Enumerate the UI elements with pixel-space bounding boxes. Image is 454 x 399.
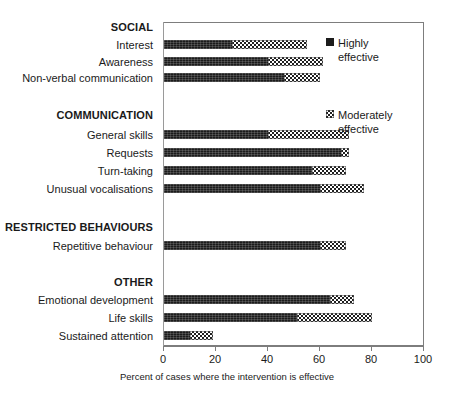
- x-axis-tick-label: 0: [160, 353, 166, 365]
- bar-segment-moderately-effective: [190, 331, 213, 340]
- category-label-emotional-development: Emotional development: [38, 295, 153, 306]
- bar-segment-moderately-effective: [341, 148, 349, 157]
- bar-segment-moderately-effective: [320, 184, 364, 193]
- bar-segment-highly-effective: [164, 57, 268, 66]
- category-label-awareness: Awareness: [99, 57, 153, 68]
- bar-segment-highly-effective: [164, 331, 190, 340]
- category-label-life-skills: Life skills: [108, 313, 153, 324]
- bar-non-verbal-communication[interactable]: [164, 73, 320, 82]
- x-axis-tick: [371, 346, 372, 351]
- bar-segment-highly-effective: [164, 295, 330, 304]
- bar-requests[interactable]: [164, 148, 349, 157]
- legend-swatch-checkered-icon: [326, 110, 334, 118]
- bar-segment-highly-effective: [164, 313, 297, 322]
- legend-label-line1: Highly: [338, 36, 379, 50]
- legend-label-line2: effective: [338, 50, 379, 64]
- bar-segment-moderately-effective: [232, 40, 307, 49]
- legend-label-line2: effective: [338, 122, 392, 136]
- category-label-requests: Requests: [107, 148, 153, 159]
- group-label-restricted-behaviours: RESTRICTED BEHAVIOURS: [5, 222, 153, 233]
- bar-life-skills[interactable]: [164, 313, 372, 322]
- bar-turn-taking[interactable]: [164, 166, 346, 175]
- bar-general-skills[interactable]: [164, 130, 349, 139]
- bar-interest[interactable]: [164, 40, 307, 49]
- bar-segment-moderately-effective: [297, 313, 372, 322]
- bar-sustained-attention[interactable]: [164, 331, 213, 340]
- bar-repetitive-behaviour[interactable]: [164, 241, 346, 250]
- bar-segment-highly-effective: [164, 40, 232, 49]
- category-label-interest: Interest: [116, 40, 153, 51]
- stacked-bar-chart: SOCIAL Interest Awareness Non-verbal com…: [0, 0, 454, 399]
- legend-label-line1: Moderately: [338, 108, 392, 122]
- x-axis-tick-label: 20: [209, 353, 221, 365]
- bar-segment-highly-effective: [164, 166, 312, 175]
- bar-segment-moderately-effective: [330, 295, 353, 304]
- x-axis-tick: [163, 346, 164, 351]
- bar-segment-moderately-effective: [284, 73, 320, 82]
- x-axis-tick: [215, 346, 216, 351]
- x-axis-tick: [267, 346, 268, 351]
- bar-awareness[interactable]: [164, 57, 323, 66]
- bar-segment-moderately-effective: [320, 241, 346, 250]
- category-label-repetitive-behaviour: Repetitive behaviour: [53, 241, 153, 252]
- x-axis-title: Percent of cases where the intervention …: [0, 371, 454, 382]
- group-label-social: SOCIAL: [111, 22, 153, 33]
- x-axis-line: [163, 346, 424, 347]
- legend-swatch-solid-icon: [326, 38, 334, 46]
- category-label-general-skills: General skills: [87, 130, 153, 141]
- bar-segment-highly-effective: [164, 148, 341, 157]
- bar-segment-highly-effective: [164, 241, 320, 250]
- category-label-sustained-attention: Sustained attention: [59, 331, 153, 342]
- bar-segment-highly-effective: [164, 130, 268, 139]
- group-label-communication: COMMUNICATION: [57, 110, 153, 121]
- x-axis-tick: [423, 346, 424, 351]
- x-axis-tick: [319, 346, 320, 351]
- bar-segment-moderately-effective: [312, 166, 346, 175]
- category-label-turn-taking: Turn-taking: [98, 166, 153, 177]
- category-label-non-verbal-communication: Non-verbal communication: [22, 73, 153, 84]
- x-axis-tick-label: 60: [313, 353, 325, 365]
- bar-emotional-development[interactable]: [164, 295, 354, 304]
- x-axis-tick-label: 40: [261, 353, 273, 365]
- legend-label-moderately-effective: Moderately effective: [338, 108, 392, 136]
- bar-segment-moderately-effective: [268, 57, 323, 66]
- legend-item-highly-effective[interactable]: Highly effective: [326, 36, 379, 64]
- x-axis-tick-label: 80: [365, 353, 377, 365]
- legend-label-highly-effective: Highly effective: [338, 36, 379, 64]
- bar-segment-highly-effective: [164, 73, 284, 82]
- bar-unusual-vocalisations[interactable]: [164, 184, 364, 193]
- category-label-unusual-vocalisations: Unusual vocalisations: [47, 184, 153, 195]
- category-label-column: SOCIAL Interest Awareness Non-verbal com…: [0, 0, 160, 346]
- x-axis-tick-label: 100: [414, 353, 432, 365]
- bar-segment-highly-effective: [164, 184, 320, 193]
- group-label-other: OTHER: [114, 277, 153, 288]
- bars-layer: [164, 22, 424, 346]
- legend-item-moderately-effective[interactable]: Moderately effective: [326, 108, 392, 136]
